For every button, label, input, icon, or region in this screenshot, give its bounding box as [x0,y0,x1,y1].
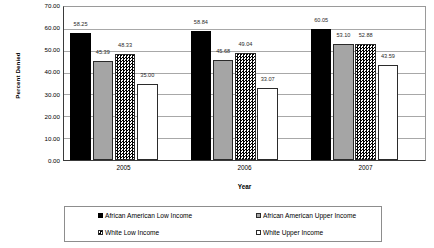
legend-swatch-icon [256,213,261,218]
legend-swatch-icon [98,230,103,235]
y-axis-tick-label: 10.00 [22,136,60,142]
bar-value-label: 43.59 [381,53,395,59]
bar-slot: 49.04 [234,7,256,160]
legend-swatch-icon [98,213,103,218]
bar-value-label: 58.84 [194,19,208,25]
bar-slot: 45.39 [92,7,114,160]
plot-wrapper: Percent Denied 70.0060.0050.0040.0030.00… [0,0,434,180]
bar[interactable] [355,44,375,160]
x-axis-tick-label: 2006 [184,164,305,172]
legend-label: White Upper Income [263,229,323,237]
y-axis-tick-label: 30.00 [22,91,60,97]
legend-label: African American Upper Income [263,212,356,220]
y-axis-title: Percent Denied [14,21,21,131]
legend-item[interactable]: White Upper Income [223,229,381,237]
bar-slot: 52.88 [355,7,377,160]
bar-groups: 58.2545.3948.3335.0058.8445.6849.0433.07… [64,7,425,160]
bar-value-label: 35.00 [140,72,154,78]
bar-value-label: 53.10 [336,32,350,38]
y-axis-tick-label: 50.00 [22,47,60,53]
bar[interactable] [235,53,255,160]
bar-value-label: 33.07 [261,76,275,82]
bar-slot: 58.84 [190,7,212,160]
bar[interactable] [213,60,233,160]
bar-group-bars: 58.8445.6849.0433.07 [190,7,279,160]
bar-slot: 43.59 [377,7,399,160]
bar[interactable] [115,54,135,160]
bar[interactable] [311,29,331,160]
bar-group-bars: 60.0553.1052.8843.59 [310,7,399,160]
bar-value-label: 45.39 [96,49,110,55]
bar-slot: 48.33 [114,7,136,160]
bar-value-label: 58.25 [74,21,88,27]
y-axis-tick-label: 20.00 [22,114,60,120]
bar[interactable] [333,44,353,160]
legend-label: White Low Income [105,229,159,237]
legend-swatch-icon [256,230,261,235]
bar[interactable] [137,84,157,161]
bar-slot: 60.05 [310,7,332,160]
legend-item[interactable]: White Low Income [65,229,223,237]
x-axis-title: Year [63,183,426,190]
bar-value-label: 48.33 [118,42,132,48]
bar-value-label: 52.88 [359,32,373,38]
x-axis-tick-label: 2007 [305,164,426,172]
legend-item[interactable]: African American Upper Income [223,212,381,220]
y-axis-tick-label: 0.00 [22,158,60,164]
bar-slot: 45.68 [212,7,234,160]
x-axis-tick-label: 2005 [63,164,184,172]
bar-slot: 53.10 [332,7,354,160]
y-axis-tick-label: 60.00 [22,25,60,31]
bar-slot: 35.00 [136,7,158,160]
y-axis-tick-labels: 70.0060.0050.0040.0030.0020.0010.000.00 [22,6,60,161]
bar[interactable] [191,31,211,160]
y-axis-tick-label: 40.00 [22,69,60,75]
bar[interactable] [257,88,277,160]
bar-chart: Percent Denied 70.0060.0050.0040.0030.00… [0,0,434,248]
bar-slot: 58.25 [69,7,91,160]
bar-group: 58.2545.3948.3335.00 [64,7,184,160]
bar-value-label: 49.04 [238,41,252,47]
legend-item[interactable]: African American Low Income [65,212,223,220]
bar-value-label: 60.05 [314,17,328,23]
bar[interactable] [378,65,398,160]
bar[interactable] [93,61,113,160]
bar[interactable] [70,33,90,160]
bar-slot: 33.07 [257,7,279,160]
bar-group: 60.0553.1052.8843.59 [305,7,425,160]
legend-label: African American Low Income [105,212,192,220]
bar-group: 58.8445.6849.0433.07 [184,7,304,160]
y-axis-tick-label: 70.00 [22,3,60,9]
chart-legend: African American Low IncomeAfrican Ameri… [64,206,382,242]
bar-group-bars: 58.2545.3948.3335.00 [69,7,158,160]
x-axis-tick-labels: 200520062007 [63,164,426,172]
plot-area: 58.2545.3948.3335.0058.8445.6849.0433.07… [63,6,426,161]
bar-value-label: 45.68 [216,48,230,54]
